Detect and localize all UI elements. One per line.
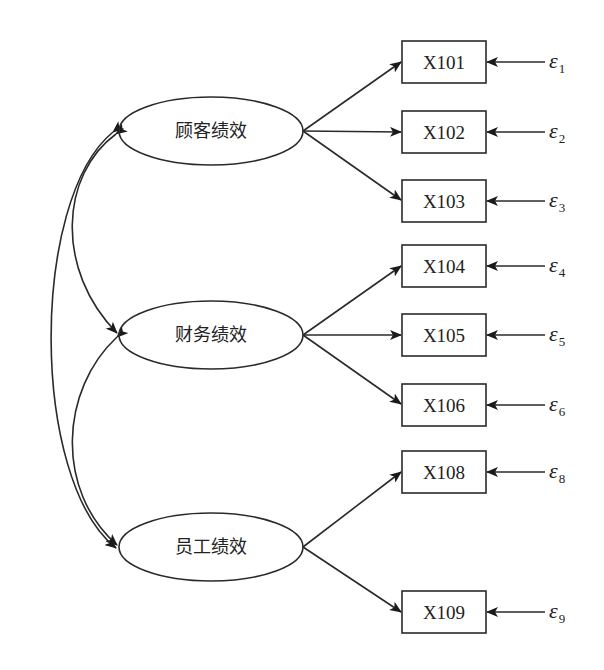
cov-finance-employee [72,337,117,545]
observed-x103: X103 ε3 [402,180,565,222]
cov-customer-finance [72,134,117,333]
latent-label: 财务绩效 [175,324,247,345]
latent-employee-performance: 员工绩效 [119,513,303,581]
observed-label: X104 [423,256,466,277]
observed-label: X108 [423,462,465,483]
latent-label: 员工绩效 [175,536,247,557]
observed-label: X109 [423,602,465,623]
observed-x102: X102 ε2 [402,111,565,153]
observed-x104: X104 ε4 [402,245,566,287]
observed-x108: X108 ε8 [402,451,565,493]
observed-label: X105 [423,325,465,346]
observed-label: X106 [423,395,465,416]
latent-financial-performance: 财务绩效 [119,301,303,369]
error-term: ε9 [549,598,565,626]
error-term: ε8 [549,458,565,486]
covariance-arrows [51,132,117,548]
loading-arrows [303,62,401,612]
latent-label: 顾客绩效 [175,120,247,141]
observed-label: X101 [423,52,465,73]
error-term: ε5 [549,321,565,349]
error-term: ε6 [549,391,566,419]
observed-x109: X109 ε9 [402,591,565,633]
error-term: ε2 [549,118,565,146]
latent-customer-performance: 顾客绩效 [119,97,303,165]
observed-x106: X106 ε6 [402,384,566,426]
observed-x105: X105 ε5 [402,314,565,356]
error-term: ε3 [549,187,565,215]
observed-label: X102 [423,122,465,143]
error-term: ε4 [549,252,566,280]
observed-x101: X101 ε1 [402,41,565,83]
error-term: ε1 [549,48,565,76]
cov-customer-employee [51,132,116,548]
observed-label: X103 [423,191,465,212]
sem-diagram: 顾客绩效 财务绩效 员工绩效 X101 ε1 X102 ε2 X103 ε3 [0,0,604,670]
